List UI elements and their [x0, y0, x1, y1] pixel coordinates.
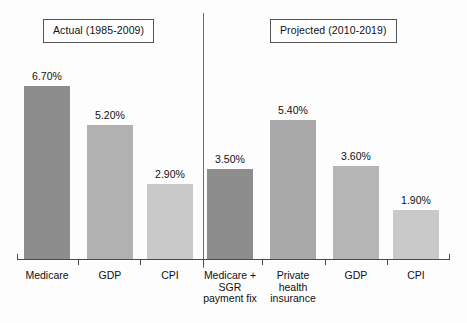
bar-value-private-health-insurance-projected: 5.40% [253, 105, 333, 116]
bar-gdp-projected [333, 166, 379, 259]
bar-private-health-insurance-projected [270, 120, 316, 259]
x-axis-left-cap [17, 254, 18, 260]
x-axis-tick [262, 260, 263, 265]
x-axis-label-cpi-projected: CPI [374, 270, 458, 282]
x-axis-tick [387, 260, 388, 265]
x-axis-tick [140, 260, 141, 265]
x-axis-tick [203, 260, 204, 265]
bar-value-gdp-actual: 5.20% [70, 110, 150, 121]
bar-value-medicare-actual: 6.70% [7, 71, 87, 82]
bar-medicare-actual [24, 86, 70, 259]
bar-value-cpi-actual: 2.90% [130, 169, 210, 180]
x-axis-line [17, 259, 450, 260]
panel-divider [203, 13, 204, 268]
bar-value-gdp-projected: 3.60% [316, 151, 396, 162]
x-axis-tick [325, 260, 326, 265]
bar-medicare-sgr-projected [207, 169, 253, 259]
x-axis-right-cap [449, 254, 450, 260]
bar-cpi-projected [393, 210, 439, 259]
panel-header-actual: Actual (1985-2009) [43, 19, 154, 43]
bar-chart-figure: Actual (1985-2009) Projected (2010-2019)… [0, 0, 467, 323]
bar-gdp-actual [87, 125, 133, 259]
bar-cpi-actual [147, 184, 193, 259]
x-axis-tick [78, 260, 79, 265]
bar-value-cpi-projected: 1.90% [376, 195, 456, 206]
bar-value-medicare-sgr-projected: 3.50% [190, 154, 270, 165]
panel-header-projected: Projected (2010-2019) [270, 19, 397, 43]
